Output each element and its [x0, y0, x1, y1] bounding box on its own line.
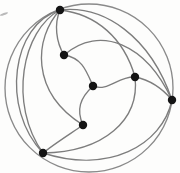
graph-vertex-lower-inner [79, 121, 87, 129]
graph-canvas [0, 0, 180, 173]
graph-vertex-center [89, 82, 97, 90]
graph-vertex-right [168, 96, 176, 104]
graph-figure [0, 0, 180, 173]
graph-vertex-upper-left-inner [60, 51, 68, 59]
graph-vertex-bottom-left [39, 149, 47, 157]
graph-vertex-top [56, 6, 64, 14]
graph-vertex-upper-right-inner [131, 73, 139, 81]
